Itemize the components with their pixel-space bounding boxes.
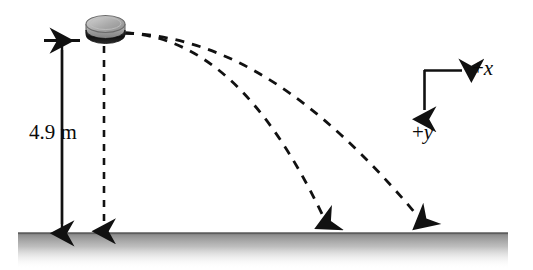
figure-canvas	[0, 0, 533, 270]
trajectory-slow	[125, 33, 322, 214]
axis-x-label: +x	[472, 58, 493, 79]
coordinate-axes	[424, 70, 462, 110]
height-label: 4.9 m	[29, 122, 77, 143]
ground-shadow	[18, 235, 508, 269]
axis-y-label: +y	[412, 122, 433, 143]
axis-x-sign: +	[472, 56, 484, 80]
ground	[18, 234, 508, 270]
trajectory-slow-curve	[125, 33, 322, 214]
axis-y-sign: +	[412, 120, 424, 144]
axis-x-symbol: x	[484, 56, 493, 80]
puck-top-face	[86, 16, 125, 33]
axis-y-symbol: y	[424, 120, 433, 144]
projectile-motion-figure: 4.9 m +x +y	[0, 0, 533, 270]
puck-object	[86, 16, 125, 44]
